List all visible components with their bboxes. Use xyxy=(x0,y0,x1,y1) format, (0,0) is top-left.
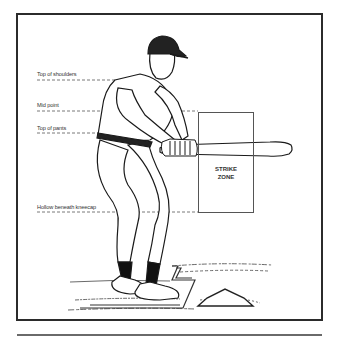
strike-zone-label: STRIKE ZONE xyxy=(198,165,254,181)
bottom-divider xyxy=(17,334,322,336)
label-hollow-beneath-kneecap: Hollow beneath kneecap xyxy=(37,205,96,211)
batter-illustration xyxy=(0,0,338,337)
label-mid-point: Mid point xyxy=(37,103,59,109)
strike-zone-box xyxy=(198,112,254,213)
strike-zone-line2: ZONE xyxy=(198,173,254,181)
batter-torso xyxy=(97,74,188,147)
home-plate xyxy=(198,289,253,306)
batter-head xyxy=(148,36,188,79)
strike-zone-line1: STRIKE xyxy=(198,165,254,173)
label-top-of-pants: Top of pants xyxy=(37,126,66,132)
batter-legs xyxy=(97,140,178,300)
batter-hands xyxy=(161,139,197,156)
label-top-of-shoulders: Top of shoulders xyxy=(37,72,76,78)
